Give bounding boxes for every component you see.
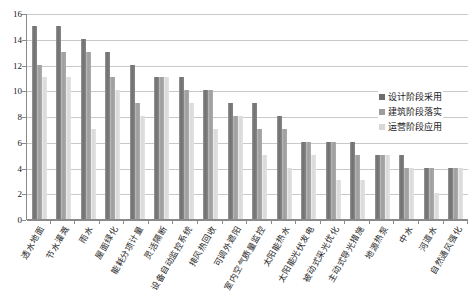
x-axis-label-cell: 雨水 [75, 224, 100, 296]
x-axis-label-cell: 中水 [394, 224, 419, 296]
bar-group [76, 14, 101, 219]
bar [262, 155, 267, 219]
bar-group [174, 14, 199, 219]
bar [336, 180, 341, 219]
bar [360, 180, 365, 219]
bar-group [101, 14, 126, 219]
bar-group [321, 14, 346, 219]
x-axis-label-cell: 节水灌溉 [51, 224, 76, 296]
bar [189, 103, 194, 219]
bar-group [125, 14, 150, 219]
x-axis-label-cell: 主动式导光措施 [345, 224, 370, 296]
legend-label: 建筑阶段落实 [388, 105, 442, 118]
bar [213, 129, 218, 219]
bar [115, 90, 120, 219]
y-axis-tick-label: 10 [13, 87, 22, 96]
bar [140, 116, 145, 219]
bar-group [248, 14, 273, 219]
x-axis-label: 雨水 [78, 225, 94, 245]
bar-group [199, 14, 224, 219]
bar [42, 77, 47, 219]
bar [409, 168, 414, 220]
bar [287, 168, 292, 220]
y-axis-tick-label: 16 [13, 10, 22, 19]
legend-item[interactable]: 设计阶段采用 [378, 90, 443, 103]
x-axis-label: 河道水 [418, 225, 439, 253]
x-axis-label-cell: 能耗分项计量 [124, 224, 149, 296]
bar-group [223, 14, 248, 219]
y-axis: 1614121086420 [0, 14, 26, 220]
x-axis-label-cell: 地源热泵 [370, 224, 395, 296]
bar-group [444, 14, 469, 219]
legend-swatch-icon [379, 109, 385, 115]
legend: 设计阶段采用建筑阶段落实运营阶段应用 [378, 90, 443, 133]
legend-item[interactable]: 运营阶段应用 [378, 120, 443, 133]
bar-group [52, 14, 77, 219]
y-axis-tick-label: 12 [13, 61, 22, 70]
bar [238, 116, 243, 219]
bar-group [297, 14, 322, 219]
bar [66, 77, 71, 219]
bar [434, 193, 439, 219]
x-axis-label: 中水 [398, 225, 414, 245]
legend-swatch-icon [379, 124, 385, 130]
bar-chart: 1614121086420 透水地面节水灌溉雨水屋面绿化能耗分项计量灵活隔断设备… [0, 0, 474, 296]
bar [91, 129, 96, 219]
legend-label: 运营阶段应用 [388, 120, 442, 133]
bar [311, 155, 316, 219]
x-axis-label: 透水地面 [20, 225, 45, 260]
legend-item[interactable]: 建筑阶段落实 [378, 105, 443, 118]
bar [385, 155, 390, 219]
legend-label: 设计阶段采用 [388, 90, 442, 103]
bar-group [346, 14, 371, 219]
bar [458, 168, 463, 220]
legend-swatch-icon [379, 94, 385, 100]
bar-group [150, 14, 175, 219]
x-axis-label-cell: 自然通风强化 [444, 224, 469, 296]
x-axis-label-cell: 透水地面 [26, 224, 51, 296]
y-axis-tick-label: 14 [13, 35, 22, 44]
x-axis-labels: 透水地面节水灌溉雨水屋面绿化能耗分项计量灵活隔断设备自动监控系统排风热回收可调外… [26, 224, 468, 296]
bar-group [272, 14, 297, 219]
bar-group [27, 14, 52, 219]
bar [164, 77, 169, 219]
